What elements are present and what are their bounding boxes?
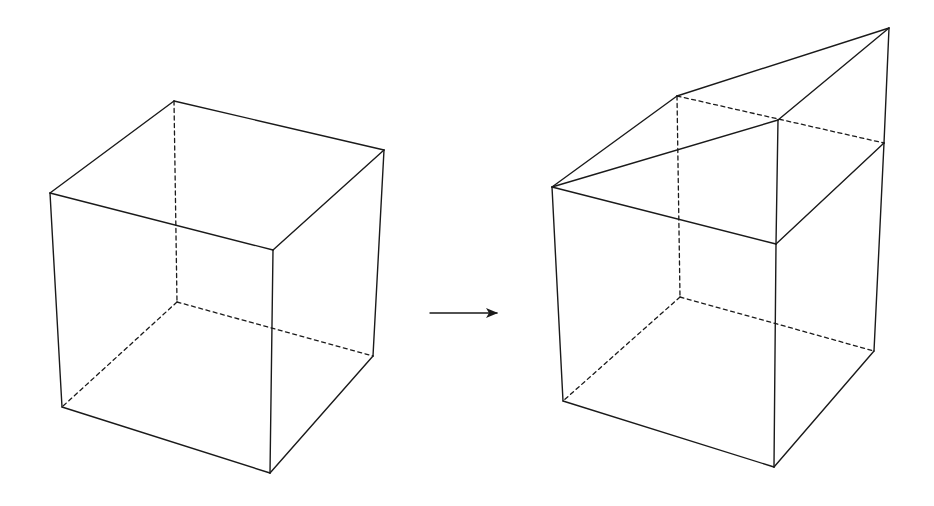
left-cube [50, 101, 384, 473]
cube-transformation-diagram [0, 0, 934, 506]
right-cube-with-wedge [552, 28, 889, 467]
diagram-canvas [0, 0, 934, 506]
